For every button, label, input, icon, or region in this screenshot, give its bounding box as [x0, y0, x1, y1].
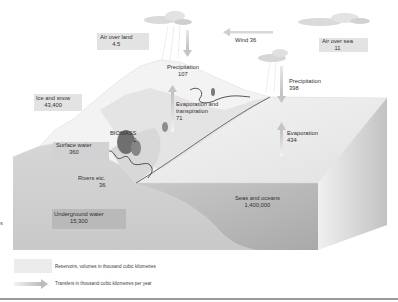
transfer-name-line1: Evaporation and — [176, 101, 218, 108]
rivers-label: Rivers etc. 36 — [78, 175, 105, 189]
reservoir-value: 15,300 — [54, 218, 104, 225]
reservoir-name: Seas and oceans — [235, 195, 280, 202]
reservoir-value: 1,400,000 — [235, 202, 280, 209]
surface-water-label: Surface water 360 — [56, 142, 92, 156]
wind-arrow — [223, 28, 273, 37]
transfer-name: Rivers etc. — [78, 175, 105, 182]
transfer-value: 71 — [176, 115, 218, 122]
air-over-sea-label: Air over sea 11 — [322, 38, 353, 52]
reservoir-value: 4.5 — [100, 41, 133, 48]
biomass-label: BIOMASS 2 — [110, 130, 136, 144]
precipitation-land-arrow — [183, 30, 192, 57]
transfer-name: Precipitation — [167, 64, 199, 71]
transfer-name: Evaporation — [287, 130, 318, 137]
reservoir-name: Air over sea — [322, 38, 353, 45]
reservoir-name: Surface water — [56, 142, 92, 149]
cloud-icon — [258, 49, 288, 62]
legend-transfers-text: Transfers in thousand cubic kilometres p… — [55, 281, 152, 286]
ice-and-snow-label: Ice and snow 43,400 — [36, 95, 70, 109]
seas-and-oceans-label: Seas and oceans 1,400,000 — [235, 195, 280, 209]
legend-reservoirs-text: Reservoirs, volumes in thousand cubic ki… — [55, 264, 156, 269]
evapotranspiration-label: Evaporation and transpiration 71 — [176, 101, 218, 122]
transfer-name-line2: transpiration — [176, 108, 218, 115]
reservoir-name: Air over land — [100, 34, 133, 41]
air-over-land-label: Air over land 4.5 — [100, 34, 133, 48]
edge-text-fragment: s — [0, 220, 3, 227]
cloud-icon — [298, 13, 370, 26]
reservoir-value: 11 — [322, 45, 353, 52]
reservoir-name: Ice and snow — [36, 95, 70, 102]
precipitation-sea-arrow — [277, 66, 286, 103]
evaporation-sea-label: Evaporation 434 — [287, 130, 318, 144]
underground-water-label: Underground water 15,300 — [54, 211, 104, 225]
legend-reservoir-swatch — [14, 259, 52, 273]
bottom-divider — [0, 298, 398, 300]
transfer-value: 107 — [167, 71, 199, 78]
wind-label: Wind 36 — [235, 37, 256, 44]
reservoir-value: 43,400 — [36, 102, 70, 109]
transfer-name: Precipitation — [289, 78, 321, 85]
legend-transfer-arrow — [14, 279, 48, 289]
reservoir-name: Underground water — [54, 211, 104, 218]
cloud-icon — [144, 11, 192, 25]
precipitation-land-label: Precipitation 107 — [167, 64, 199, 78]
transfer-value: 434 — [287, 137, 318, 144]
reservoir-value: 360 — [56, 149, 92, 156]
reservoir-name: BIOMASS — [110, 130, 136, 137]
transfer-value: 398 — [289, 85, 321, 92]
reservoir-value: 2 — [110, 137, 136, 144]
transfer-value: 36 — [78, 182, 105, 189]
precipitation-sea-label: Precipitation 398 — [289, 78, 321, 92]
